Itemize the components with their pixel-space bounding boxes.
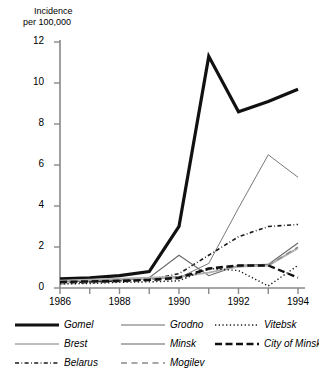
data-series-layer xyxy=(60,56,298,286)
y-tick-label: 2 xyxy=(22,240,44,251)
legend-swatch-icon xyxy=(120,337,166,351)
legend-label: Grodno xyxy=(170,319,203,330)
legend-label: Belarus xyxy=(64,357,98,368)
x-tick-label: 1990 xyxy=(162,296,196,307)
y-tick-label: 0 xyxy=(22,281,44,292)
legend-swatch-icon xyxy=(14,356,60,370)
x-axis-ticks xyxy=(60,288,298,294)
y-tick-label: 12 xyxy=(22,35,44,46)
y-tick-label: 8 xyxy=(22,117,44,128)
x-tick-label: 1986 xyxy=(43,296,77,307)
series-line-belarus xyxy=(60,224,298,282)
legend-label: Brest xyxy=(64,338,87,349)
x-tick-label: 1988 xyxy=(103,296,137,307)
y-tick-label: 6 xyxy=(22,158,44,169)
axis-lines xyxy=(60,40,305,288)
legend-swatch-icon xyxy=(120,356,166,370)
y-tick-label: 10 xyxy=(22,76,44,87)
y-axis-ticks xyxy=(54,42,60,288)
legend-label: Mogilev xyxy=(170,357,204,368)
legend-swatch-icon xyxy=(14,318,60,332)
y-tick-label: 4 xyxy=(22,199,44,210)
legend-label: City of Minsk xyxy=(264,338,319,349)
legend-swatch-icon xyxy=(214,337,260,351)
legend-label: Vitebsk xyxy=(264,319,297,330)
chart-legend: GomelBrestBelarusGrodnoMinskMogilevViteb… xyxy=(0,316,319,372)
series-line-gomel xyxy=(60,56,298,278)
legend-swatch-icon xyxy=(14,337,60,351)
incidence-line-chart: Incidence per 100,000 024681012 19861988… xyxy=(0,0,319,372)
legend-label: Gomel xyxy=(64,319,93,330)
legend-label: Minsk xyxy=(170,338,196,349)
legend-swatch-icon xyxy=(214,318,260,332)
legend-swatch-icon xyxy=(120,318,166,332)
x-tick-label: 1994 xyxy=(281,296,315,307)
x-tick-label: 1992 xyxy=(222,296,256,307)
